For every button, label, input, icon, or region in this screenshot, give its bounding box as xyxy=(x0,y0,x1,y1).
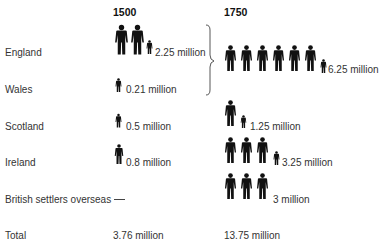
total-1750: 13.75 million xyxy=(224,230,280,239)
person-figure-small-icon xyxy=(115,78,122,92)
person-figure-icon xyxy=(240,135,253,165)
person-figure-small-icon xyxy=(240,115,247,128)
value-ireland-1750: 3.25 million xyxy=(282,157,333,168)
person-figure-icon xyxy=(272,43,285,73)
row-label-settlers: British settlers overseas xyxy=(5,194,111,205)
person-figure-icon xyxy=(224,171,237,201)
value-england-1500: 2.25 million xyxy=(155,47,206,58)
value-ireland-1500: 0.8 million xyxy=(126,157,171,168)
person-figure-small-icon xyxy=(115,113,122,128)
column-header-1750: 1750 xyxy=(224,6,247,18)
person-figure-icon xyxy=(256,135,269,165)
person-figure-icon xyxy=(224,43,237,73)
person-figure-icon xyxy=(256,43,269,73)
person-figure-small-icon xyxy=(273,151,280,165)
person-figure-icon xyxy=(224,98,237,128)
row-label-england: England xyxy=(5,47,42,58)
person-figure-small-icon xyxy=(146,40,153,54)
value-scotland-1500: 0.5 million xyxy=(126,121,171,132)
row-label-scotland: Scotland xyxy=(5,121,44,132)
person-figure-icon xyxy=(240,43,253,73)
row-label-total: Total xyxy=(5,230,26,239)
person-figure-icon xyxy=(304,43,317,73)
value-scotland-1750: 1.25 million xyxy=(250,121,301,132)
person-figure-medium-icon xyxy=(114,143,124,165)
value-england-wales-1750: 6.25 million xyxy=(328,64,379,75)
person-figure-icon xyxy=(288,43,301,73)
row-label-ireland: Ireland xyxy=(5,157,36,168)
value-settlers-1750: 3 million xyxy=(273,194,310,205)
person-figure-icon xyxy=(114,24,129,55)
person-figure-icon xyxy=(130,24,145,55)
column-header-1500: 1500 xyxy=(113,6,136,18)
total-1500: 3.76 million xyxy=(113,230,164,239)
person-figure-icon xyxy=(224,135,237,165)
person-figure-icon xyxy=(240,171,253,201)
value-wales-1500: 0.21 million xyxy=(126,84,177,95)
row-label-wales: Wales xyxy=(5,84,32,95)
person-figure-icon xyxy=(256,171,269,201)
no-data-dash xyxy=(114,199,125,200)
person-figure-small-icon xyxy=(320,59,327,73)
bracket-england-wales xyxy=(205,24,215,96)
